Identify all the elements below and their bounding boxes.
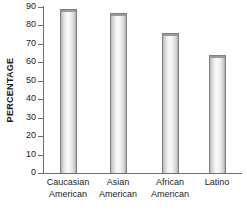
- x-axis-label-line1: Latino: [205, 177, 230, 187]
- y-tick-mark: [38, 44, 44, 45]
- y-tick-mark: [38, 62, 44, 63]
- y-tick-label-text: 50: [16, 76, 36, 85]
- y-tick-label: 80: [12, 20, 36, 30]
- bar: [110, 13, 127, 173]
- bar: [162, 33, 179, 173]
- x-axis-label-line1: African: [156, 177, 184, 187]
- y-tick-label-text: 60: [16, 57, 36, 66]
- y-tick-label: 90: [12, 2, 36, 12]
- y-tick-mark: [38, 118, 44, 119]
- y-tick-label-text: 30: [16, 113, 36, 122]
- x-axis-label-line2: American: [138, 189, 202, 201]
- bar-chart: PERCENTAGE 9080706050403020100 Caucasian…: [0, 0, 247, 216]
- y-tick-label-text: 70: [16, 39, 36, 48]
- y-tick-label: 30: [12, 113, 36, 123]
- y-tick-label: 20: [12, 131, 36, 141]
- y-tick-label: 70: [12, 39, 36, 49]
- y-tick-label-text: 90: [16, 2, 36, 11]
- y-tick-mark: [38, 155, 44, 156]
- y-tick-label-text: 20: [16, 131, 36, 140]
- y-tick-label: 0: [12, 168, 36, 178]
- y-tick-label-text: 80: [16, 20, 36, 29]
- y-tick-label: 40: [12, 94, 36, 104]
- y-tick-label: 50: [12, 76, 36, 86]
- bar: [60, 9, 77, 173]
- bar: [209, 55, 226, 173]
- x-axis-label-line1: Caucasian: [47, 177, 90, 187]
- y-tick-mark: [38, 25, 44, 26]
- y-tick-mark: [38, 81, 44, 82]
- x-axis-label: Latino: [185, 177, 247, 189]
- y-tick-label-text: 40: [16, 94, 36, 103]
- y-tick-label: 60: [12, 57, 36, 67]
- y-tick-mark: [38, 7, 44, 8]
- y-axis-line: [43, 6, 44, 174]
- y-tick-label: 10: [12, 150, 36, 160]
- y-tick-label-text: 10: [16, 150, 36, 159]
- y-tick-mark: [38, 173, 44, 174]
- x-axis-label-line1: Asian: [107, 177, 130, 187]
- y-tick-mark: [38, 99, 44, 100]
- x-axis-line: [43, 173, 242, 174]
- y-tick-mark: [38, 136, 44, 137]
- y-tick-label-text: 0: [16, 168, 36, 177]
